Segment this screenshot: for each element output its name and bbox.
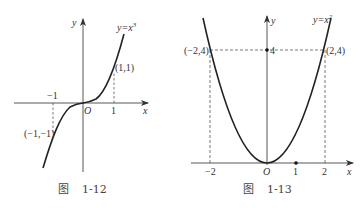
figure-1-12: y x O 1 −1 (1,1) (−1,−1) y=x3 图 1-12	[14, 17, 148, 196]
point-label-neg2-4: (−2,4)	[184, 45, 209, 57]
point-label-2-4: (2,4)	[326, 45, 345, 57]
function-label: y=x3	[116, 21, 137, 33]
tick-label-neg1: −1	[47, 90, 58, 101]
caption-number: 1-12	[82, 183, 107, 196]
point-0-4	[265, 48, 269, 52]
figure-1-13: y x O 4 −2 1 2 (2,4) (−2,4) y=x2 图 1-13	[184, 13, 353, 196]
x-axis-label: x	[142, 105, 148, 116]
point-label-neg1-neg1: (−1,−1)	[24, 128, 54, 140]
origin-label: O	[84, 105, 91, 116]
y-axis-label: y	[270, 15, 276, 26]
caption-number: 1-13	[267, 183, 292, 196]
caption-prefix: 图	[58, 183, 69, 196]
tick-label-y4: 4	[270, 45, 275, 56]
origin-label: O	[263, 166, 270, 177]
y-axis-label: y	[71, 17, 77, 28]
diagram-canvas: y x O 1 −1 (1,1) (−1,−1) y=x3 图 1-12 y x…	[0, 0, 360, 208]
tick-label-neg2: −2	[205, 166, 216, 177]
tick-label-1: 1	[293, 166, 298, 177]
tick-label-2: 2	[322, 166, 327, 177]
caption-prefix: 图	[243, 183, 254, 196]
x-axis-label: x	[346, 166, 352, 177]
point-label-1-1: (1,1)	[115, 62, 134, 74]
tick-label-1: 1	[111, 105, 116, 116]
point-1-0	[294, 161, 298, 165]
cubic-curve	[43, 34, 124, 168]
